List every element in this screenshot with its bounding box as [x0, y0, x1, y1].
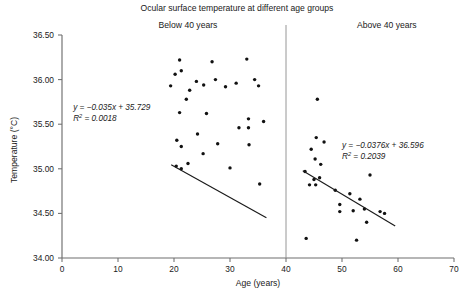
data-point: [262, 120, 265, 123]
data-point: [178, 111, 181, 114]
data-point: [169, 84, 172, 87]
data-point: [247, 117, 250, 120]
data-point: [314, 183, 317, 186]
y-tick-label: 34.50: [33, 208, 54, 218]
data-point: [365, 221, 368, 224]
panel-labels-group: Below 40 yearsAbove 40 years: [159, 20, 417, 30]
data-point: [195, 80, 198, 83]
data-point: [318, 176, 321, 179]
x-tick-label: 50: [337, 264, 347, 274]
data-point: [304, 237, 307, 240]
data-point: [201, 152, 204, 155]
data-point: [378, 210, 381, 213]
trend-line-below-40: [171, 165, 266, 218]
trend-lines-group: [171, 165, 395, 226]
data-point: [368, 173, 371, 176]
y-tick-label: 35.50: [33, 119, 54, 129]
panel-label-above-40: Above 40 years: [357, 20, 417, 30]
data-point: [202, 83, 205, 86]
x-tick-label: 20: [169, 264, 179, 274]
data-point: [185, 98, 188, 101]
data-point: [247, 143, 250, 146]
data-point: [173, 73, 176, 76]
scatter-chart: Ocular surface temperature at different …: [0, 0, 475, 295]
x-axis-title: Age (years): [236, 278, 281, 288]
data-point: [348, 192, 351, 195]
data-point: [352, 209, 355, 212]
data-point: [237, 126, 240, 129]
data-point: [196, 132, 199, 135]
data-point: [178, 58, 181, 61]
data-point: [258, 182, 261, 185]
data-point: [216, 142, 219, 145]
data-point: [338, 210, 341, 213]
regression-annotations-group: y = −0.035x + 35.729R2 = 0.0018y = −0.03…: [72, 103, 424, 161]
data-point: [224, 85, 227, 88]
axis-ticks-group: 34.0034.5035.0035.5036.0036.500102030405…: [33, 30, 459, 274]
y-tick-label: 35.00: [33, 164, 54, 174]
x-tick-label: 0: [60, 264, 65, 274]
x-tick-label: 60: [393, 264, 403, 274]
data-point: [188, 89, 191, 92]
x-tick-label: 70: [449, 264, 459, 274]
y-tick-label: 36.00: [33, 75, 54, 85]
data-point: [234, 81, 237, 84]
data-point: [175, 139, 178, 142]
data-point: [308, 183, 311, 186]
data-point: [322, 140, 325, 143]
equation-above-40: y = −0.0376x + 36.596: [341, 141, 424, 150]
data-point: [383, 212, 386, 215]
r-squared-below-40: R2 = 0.0018: [73, 113, 117, 123]
x-tick-label: 10: [113, 264, 123, 274]
data-point: [247, 126, 250, 129]
data-point: [358, 197, 361, 200]
x-tick-label: 30: [225, 264, 235, 274]
chart-title: Ocular surface temperature at different …: [141, 3, 334, 13]
data-point: [310, 147, 313, 150]
data-point: [245, 57, 248, 60]
r-squared-above-40: R2 = 0.2039: [342, 151, 386, 161]
panel-label-below-40: Below 40 years: [159, 20, 218, 30]
data-point: [214, 78, 217, 81]
y-tick-label: 36.50: [33, 30, 54, 40]
data-point: [180, 145, 183, 148]
y-tick-label: 34.00: [33, 253, 54, 263]
equation-below-40: y = −0.035x + 35.729: [72, 103, 151, 112]
data-point: [210, 60, 213, 63]
data-point: [355, 238, 358, 241]
data-point: [180, 69, 183, 72]
x-tick-label: 40: [281, 264, 291, 274]
data-point: [338, 203, 341, 206]
data-point: [313, 157, 316, 160]
data-point: [253, 78, 256, 81]
y-axis-title: Temperature (°C): [9, 117, 19, 183]
data-point: [319, 163, 322, 166]
data-point: [205, 112, 208, 115]
data-point: [228, 166, 231, 169]
data-point: [186, 162, 189, 165]
data-point: [315, 136, 318, 139]
data-point: [257, 84, 260, 87]
data-point: [316, 98, 319, 101]
trend-line-above-40: [303, 171, 395, 226]
